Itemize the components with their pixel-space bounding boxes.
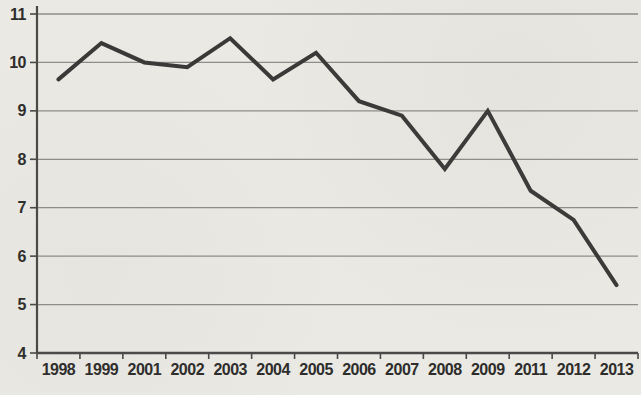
data-series-line bbox=[58, 38, 616, 285]
y-tick-label: 6 bbox=[18, 248, 27, 265]
y-tick-label: 11 bbox=[10, 6, 27, 23]
x-tick-label: 2009 bbox=[471, 361, 505, 378]
line-chart-figure: 4567891011199819992001200220032004200520… bbox=[0, 0, 641, 395]
y-tick-label: 5 bbox=[18, 296, 27, 313]
y-tick-label: 8 bbox=[18, 151, 27, 168]
x-tick-label: 1998 bbox=[42, 361, 76, 378]
x-tick-label: 2003 bbox=[213, 361, 247, 378]
y-tick-label: 9 bbox=[18, 102, 27, 119]
x-tick-label: 2012 bbox=[557, 361, 591, 378]
y-tick-label: 7 bbox=[18, 199, 27, 216]
x-tick-label: 2006 bbox=[342, 361, 376, 378]
x-tick-label: 2002 bbox=[170, 361, 204, 378]
x-tick-label: 2001 bbox=[128, 361, 162, 378]
x-tick-label: 2007 bbox=[385, 361, 419, 378]
x-tick-label: 2008 bbox=[428, 361, 462, 378]
y-tick-label: 4 bbox=[18, 345, 27, 362]
line-chart-canvas: 4567891011199819992001200220032004200520… bbox=[0, 0, 641, 395]
x-tick-label: 2011 bbox=[514, 361, 547, 378]
x-tick-label: 2005 bbox=[299, 361, 333, 378]
x-tick-label: 2004 bbox=[256, 361, 290, 378]
x-tick-label: 1999 bbox=[85, 361, 119, 378]
x-tick-label: 2013 bbox=[600, 361, 634, 378]
y-tick-label: 10 bbox=[9, 54, 26, 71]
